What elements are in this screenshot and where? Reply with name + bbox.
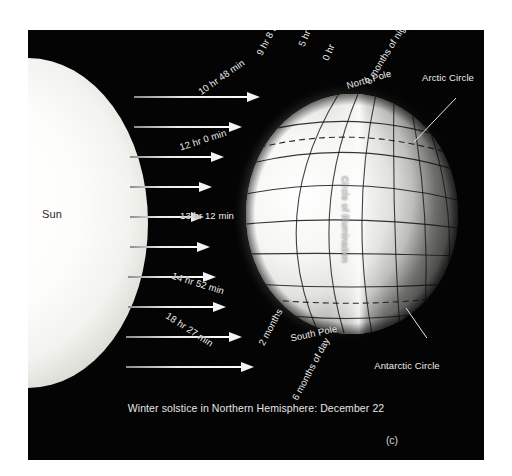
globe-graticule — [242, 90, 462, 338]
sun-ray-arrow — [130, 152, 224, 162]
antarctic-circle-label: Antarctic Circle — [374, 360, 440, 371]
panel-letter: (c) — [28, 434, 484, 446]
arrow-head-icon — [229, 122, 242, 132]
sun-ray-arrow — [126, 332, 242, 342]
sun-ray-arrow — [130, 182, 212, 192]
sun-label: Sun — [42, 208, 62, 220]
figure-caption: Winter solstice in Northern Hemisphere: … — [28, 402, 484, 414]
arrow-shaft — [128, 306, 214, 308]
arrow-shaft — [130, 156, 212, 158]
sun-ray-arrow — [128, 302, 226, 312]
arrow-shaft — [134, 96, 248, 98]
daylight-label-0hr: 0 hr — [320, 42, 336, 62]
earth-globe — [242, 90, 462, 338]
illustration-panel: Sun — [28, 30, 484, 460]
daylight-label-13hr: 13 hr 12 min — [180, 210, 234, 221]
arctic-circle-label: Arctic Circle — [420, 72, 476, 83]
arrow-head-icon — [197, 242, 210, 252]
arrow-shaft — [126, 366, 242, 368]
arrow-shaft — [130, 186, 200, 188]
arrow-shaft — [130, 246, 198, 248]
daylight-label-10hr: 10 hr 48 min — [196, 57, 247, 97]
solstice-figure: Sun — [0, 0, 512, 476]
arrow-head-icon — [211, 152, 224, 162]
circle-of-illumination-label: Circle of illumination — [340, 176, 350, 296]
arrow-head-icon — [229, 332, 242, 342]
arrow-shaft — [126, 336, 230, 338]
arctic-circle-leader — [414, 98, 456, 142]
arrow-shaft — [134, 126, 230, 128]
arrow-head-icon — [199, 182, 212, 192]
six-months-day-label: 6 months of day — [289, 349, 324, 402]
arrow-head-icon — [213, 302, 226, 312]
daylight-label-5hr: 5 hr 33 min — [296, 30, 324, 48]
daylight-label-9hr: 9 hr 8 min — [254, 30, 284, 57]
daylight-label-18hr: 18 hr 27 min — [164, 310, 215, 349]
panel-letter-text: (c) — [386, 434, 398, 446]
arrow-head-icon — [241, 362, 254, 372]
sun-ray-arrow — [126, 362, 254, 372]
sun-ray-arrow — [130, 242, 210, 252]
